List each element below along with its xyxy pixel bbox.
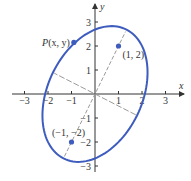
x-tick-label: −1 [66,95,77,106]
x-tick-label: 1 [116,95,121,106]
point-label-P: P(x, y) [41,37,70,49]
x-tick-label: −3 [19,95,30,106]
y-tick-label: −2 [80,137,91,148]
x-axis-label: x [178,80,184,91]
point-label-focus-1: (1, 2) [123,49,145,61]
y-tick-label: 1 [86,65,91,76]
diagram-canvas: −3−2−1123−3−2−1123 P(x, y)(1, 2)(−1, −2)… [0,0,191,181]
x-tick-label: 3 [163,95,168,106]
point-focus-1 [116,43,121,48]
ellipse-diagram: −3−2−1123−3−2−1123 P(x, y)(1, 2)(−1, −2)… [0,0,191,181]
point-label-focus-2: (−1, −2) [52,127,85,139]
point-P [71,40,76,45]
y-tick-label: 3 [86,17,91,28]
y-tick-label: 2 [86,41,91,52]
y-axis-label: y [99,1,105,12]
point-focus-2 [69,139,74,144]
y-tick-label: −1 [80,113,91,124]
